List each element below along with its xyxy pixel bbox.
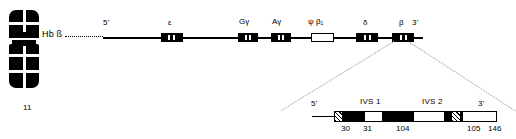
- detail-five-prime-label: 5': [311, 100, 317, 108]
- codon-marker-104: 104: [396, 125, 409, 133]
- chromosome-band-q1: [9, 54, 39, 57]
- chromosome-band-q2: [9, 70, 39, 73]
- gene-box-a-gamma[interactable]: [271, 33, 291, 42]
- locus-connector-dotted-line: [65, 36, 103, 37]
- chromosome-number-label: 11: [23, 104, 32, 112]
- detail-segment-3utr: [451, 111, 461, 122]
- gene-box-beta[interactable]: [392, 33, 414, 42]
- gene-box-epsilon[interactable]: [161, 33, 183, 42]
- detail-five-prime-flank-line: [312, 116, 335, 117]
- codon-marker-30: 30: [341, 125, 350, 133]
- chromatid-gap-bottom: [23, 46, 26, 88]
- locus-three-prime-label: 3': [412, 19, 418, 27]
- chromatid-gap-top: [23, 10, 26, 32]
- chromosome-band-p1: [9, 22, 39, 25]
- gene-label-delta: δ: [363, 19, 367, 27]
- gene-box-delta[interactable]: [356, 33, 378, 42]
- detail-label-ivs2: IVS 2: [422, 98, 443, 106]
- gene-box-psi-beta1[interactable]: [311, 33, 334, 42]
- gene-label-epsilon: ε: [168, 19, 172, 27]
- gene-label-psi-beta1: ψ β₁: [308, 18, 323, 26]
- detail-exon-1: [343, 111, 364, 122]
- codon-marker-31: 31: [363, 125, 372, 133]
- detail-exon-2: [383, 111, 413, 122]
- gene-label-a-gamma: Aγ: [272, 18, 281, 26]
- detail-intron-ivs1: [364, 111, 383, 122]
- detail-segment-5utr: [334, 111, 343, 122]
- gene-box-g-gamma[interactable]: [238, 33, 258, 42]
- codon-marker-146: 146: [488, 125, 501, 133]
- locus-five-prime-label: 5': [103, 19, 109, 27]
- detail-three-prime-label: 3': [478, 100, 484, 108]
- codon-marker-105: 105: [467, 125, 480, 133]
- detail-label-ivs1: IVS 1: [360, 98, 381, 106]
- gene-label-g-gamma: Gγ: [239, 18, 249, 26]
- chromosome-11-figure: 11: [6, 10, 42, 88]
- hb-beta-locus-label: Hb ß: [42, 30, 62, 38]
- gene-label-beta: β: [399, 19, 404, 27]
